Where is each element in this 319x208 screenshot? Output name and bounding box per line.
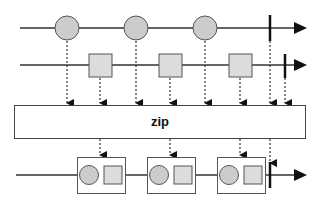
circle-item <box>193 16 217 40</box>
square-item <box>159 54 182 77</box>
circle-item <box>55 16 79 40</box>
square-item <box>89 54 112 77</box>
input-stream-squares <box>20 54 307 78</box>
circle-item <box>124 16 148 40</box>
timeline-arrow-icon <box>294 169 307 181</box>
circle-item <box>80 166 99 185</box>
timeline-arrow-icon <box>294 59 307 71</box>
circle-item <box>220 166 239 185</box>
zipped-pair-item <box>148 158 196 194</box>
timeline-arrow-icon <box>294 22 307 34</box>
input-stream-circles <box>20 15 307 41</box>
square-item <box>104 166 122 184</box>
circle-item <box>150 166 169 185</box>
square-item <box>174 166 192 184</box>
zipped-pair-item <box>218 158 266 194</box>
zipped-pair-item <box>78 158 126 194</box>
square-item <box>229 54 252 77</box>
diagram-canvas <box>0 0 319 208</box>
square-item <box>244 166 262 184</box>
operator-label: zip <box>14 105 306 139</box>
zip-marble-diagram: zip <box>0 0 319 208</box>
output-stream <box>16 158 307 194</box>
